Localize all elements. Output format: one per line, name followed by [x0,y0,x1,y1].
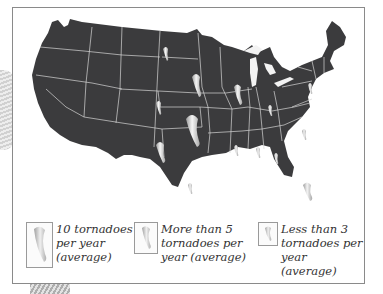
tornado-icon [256,147,260,158]
legend-symbol-small [258,222,278,246]
us-tornado-map [12,7,365,207]
legend-symbol-large [26,222,53,268]
map-legend: 10 tornadoes per year (average) More tha… [12,222,365,282]
tornado-large-icon [27,223,52,267]
tornado-icon [303,183,312,202]
tornado-icon [234,145,238,156]
tornado-icon [188,183,192,194]
tornado-medium-icon [135,223,157,253]
legend-item-medium: More than 5 tornadoes per year (average) [134,222,246,264]
us-landmass [32,19,346,187]
tornado-icon [302,129,306,140]
legend-label-small: Less than 3 tornadoes per year (average) [281,222,365,278]
legend-label-medium: More than 5 tornadoes per year (average) [161,222,246,264]
legend-item-large: 10 tornadoes per year (average) [26,222,133,268]
tornado-small-icon [259,223,277,245]
legend-symbol-medium [134,222,158,254]
legend-item-small: Less than 3 tornadoes per year (average) [258,222,365,278]
background-scrap-bottom [30,284,70,294]
legend-label-large: 10 tornadoes per year (average) [56,222,133,264]
